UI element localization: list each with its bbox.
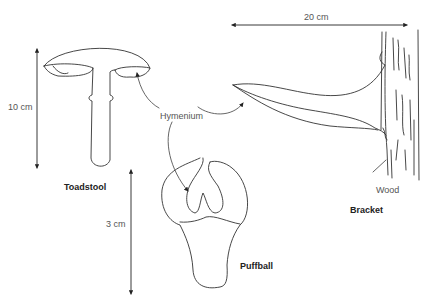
toadstool-height-label: 10 cm (8, 103, 33, 112)
bracket-title: Bracket (350, 206, 383, 215)
puffball-title: Puffball (240, 262, 273, 271)
hymenium-label: Hymenium (160, 112, 203, 121)
puffball-drawing (131, 122, 248, 294)
toadstool-title: Toadstool (64, 183, 106, 192)
fungi-diagram: 10 cm 20 cm 3 cm Hymenium Wood Toadstool… (0, 0, 430, 301)
bracket-width-label: 20 cm (304, 13, 329, 22)
bracket-drawing (198, 25, 419, 180)
puffball-height-label: 3 cm (106, 220, 126, 229)
wood-label: Wood (376, 186, 399, 195)
toadstool-drawing (37, 48, 159, 168)
